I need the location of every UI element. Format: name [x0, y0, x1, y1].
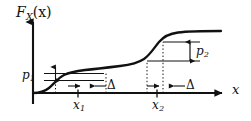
- cdf-figure: FX(x) x p1 p2 x1 x2 Δ Δ: [0, 0, 251, 121]
- p1-label: p1: [22, 69, 35, 82]
- x2-label: x2: [152, 99, 164, 112]
- x-axis-label: x: [232, 83, 239, 96]
- p2-label: p2: [196, 45, 209, 58]
- x1-label: x1: [73, 99, 85, 112]
- delta1-label: Δ: [107, 79, 116, 91]
- delta2-label: Δ: [186, 79, 195, 91]
- y-axis-label: FX(x): [16, 5, 52, 21]
